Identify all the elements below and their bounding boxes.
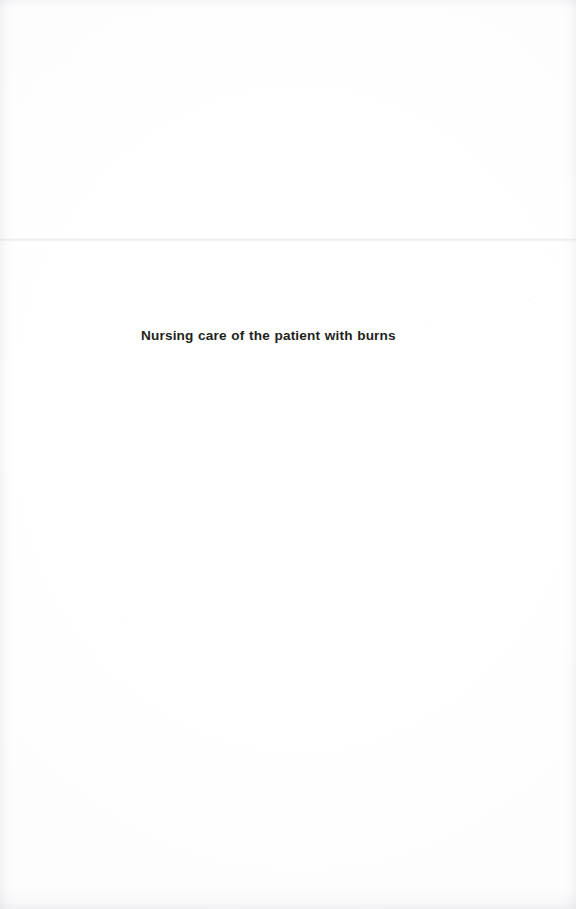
chapter-title-block: Nursing care of the patient with burns (141, 327, 441, 345)
scanned-page: Nursing care of the patient with burns (0, 0, 576, 909)
chapter-title: Nursing care of the patient with burns (141, 327, 441, 345)
paper-background (0, 0, 576, 909)
